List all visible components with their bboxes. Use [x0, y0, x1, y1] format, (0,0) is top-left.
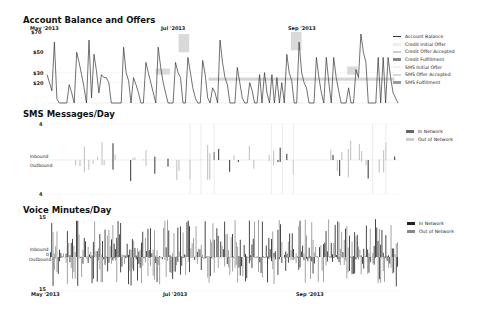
legend-credit-initial: Credit Initial Offer — [393, 41, 455, 49]
sms-inbound-label: Inbound — [30, 154, 48, 159]
voice-outbound-label: Outbound — [29, 257, 51, 262]
legend-voice-in-network: In Network — [407, 220, 454, 228]
legend-credit-fulfillment: Credit Fulfillment — [393, 56, 455, 64]
sms-outbound-label: Outbound — [30, 163, 52, 168]
sms-y-tick-top: 4 — [39, 121, 42, 127]
legend-credit-accepted: Credit Offer Accepted — [393, 48, 455, 56]
legend-sms-out-network: Out of Network — [406, 136, 453, 144]
voice-x-tick-jul: Jul '2013 — [163, 291, 187, 297]
legend-voice-out-network: Out of Network — [407, 228, 454, 236]
voice-y-tick-top: 15 — [39, 214, 46, 220]
legend-sms-accepted: SMS Offer Accepted — [393, 71, 455, 79]
voice-x-tick-sep: Sep '2013 — [296, 291, 324, 297]
sms-legend: In Network Out of Network — [406, 128, 453, 143]
sms-y-tick-bottom: 4 — [39, 191, 42, 197]
legend-sms-fulfillment: SMS Fulfillment — [393, 79, 455, 87]
legend-account-balance: Account Balance — [393, 33, 455, 41]
voice-chart-title: Voice Minutes/Day — [23, 205, 111, 215]
voice-legend: In Network Out of Network — [407, 220, 454, 235]
legend-sms-in-network: In Network — [406, 128, 453, 136]
balance-legend: Account Balance Credit Initial Offer Cre… — [393, 33, 455, 86]
sms-chart-title: SMS Messages/Day — [23, 109, 115, 119]
legend-sms-initial: SMS Initial Offer — [393, 63, 455, 71]
voice-x-tick-may: May '2013 — [31, 291, 60, 297]
